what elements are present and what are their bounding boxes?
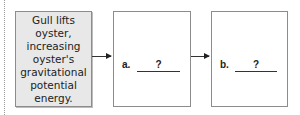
- step-box-given: Gull lifts oyster, increasing oyster's g…: [15, 11, 92, 107]
- blank-label: a.: [122, 59, 130, 70]
- step-text: Gull lifts oyster, increasing oyster's g…: [16, 14, 91, 105]
- blank-question-mark: ?: [235, 59, 277, 70]
- margin-dotted-line: [4, 0, 5, 115]
- blank-underline: [137, 71, 180, 72]
- right-arrow-icon: [191, 56, 209, 57]
- step-box-b: b. ?: [211, 11, 288, 107]
- right-arrow-icon: [92, 56, 111, 57]
- fill-in-blank-a[interactable]: a. ?: [120, 59, 184, 73]
- blank-label: b.: [220, 59, 229, 70]
- step-box-a: a. ?: [113, 11, 191, 107]
- blank-underline: [235, 71, 277, 72]
- fill-in-blank-b[interactable]: b. ?: [218, 59, 281, 73]
- blank-question-mark: ?: [137, 59, 180, 70]
